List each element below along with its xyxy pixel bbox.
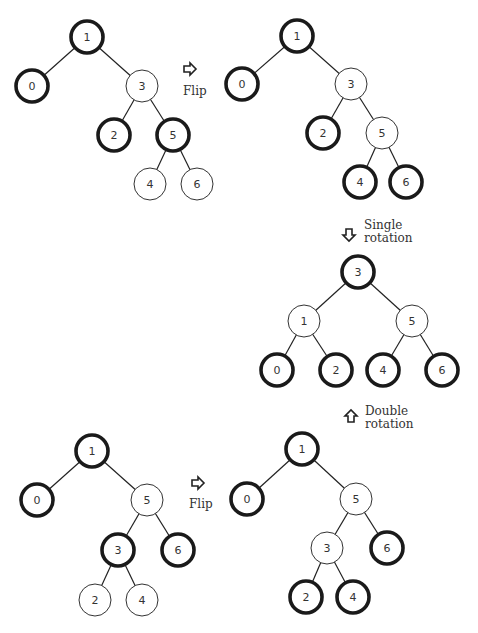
tree-node-5: 5 [396,305,428,337]
arrow-right-icon [192,477,204,489]
node-label: 1 [84,31,91,44]
node-label: 5 [144,494,151,507]
node-label: 1 [294,30,301,43]
tree-top-left: 1032546 [16,21,213,200]
tree-middle: 3150246 [261,256,458,386]
tree-node-0: 0 [226,68,258,100]
flip-top-label: Flip [183,63,207,98]
double-rotation-label: Doublerotation [345,404,414,431]
node-label: 1 [89,445,96,458]
arrow-up-icon [345,410,357,422]
node-label: 6 [175,544,182,557]
tree-node-6: 6 [181,168,213,200]
tree-top-right: 1032546 [226,20,422,198]
arrow-right-icon [184,63,196,75]
node-label: 0 [274,364,281,377]
tree-node-2: 2 [98,119,130,151]
single-rotation-label: Singlerotation [343,218,413,245]
node-label: 2 [111,129,118,142]
node-label: 2 [303,591,310,604]
tree-node-6: 6 [162,534,194,566]
node-label: 3 [324,542,331,555]
tree-node-0: 0 [261,354,293,386]
tree-node-1: 1 [76,435,108,467]
node-label: 0 [239,78,246,91]
node-label: 5 [353,493,360,506]
node-label: 5 [379,127,386,140]
transition-caption: Single [364,218,402,232]
node-label: 3 [139,80,146,93]
tree-node-3: 3 [102,534,134,566]
tree-node-6: 6 [390,166,422,198]
tree-node-5: 5 [340,483,372,515]
arrow-down-icon [343,229,355,241]
node-label: 0 [29,80,36,93]
node-label: 4 [139,594,146,607]
node-label: 6 [439,364,446,377]
red-black-tree-diagram: 10325461032546315024610536241053624FlipS… [0,0,478,633]
flip-bottom-label: Flip [189,477,213,511]
tree-node-4: 4 [344,166,376,198]
node-label: 2 [92,594,99,607]
node-label: 6 [384,542,391,555]
tree-node-6: 6 [371,532,403,564]
transition-caption: rotation [365,417,414,431]
node-label: 2 [333,364,340,377]
tree-node-5: 5 [157,119,189,151]
tree-node-0: 0 [16,70,48,102]
node-label: 1 [301,315,308,328]
tree-node-1: 1 [286,433,318,465]
node-label: 5 [170,129,177,142]
tree-node-1: 1 [288,305,320,337]
node-label: 6 [194,178,201,191]
node-label: 6 [403,176,410,189]
transition-caption: Flip [183,84,207,98]
tree-node-2: 2 [307,117,339,149]
node-label: 4 [147,178,154,191]
tree-bottom-right: 1053624 [231,433,403,613]
tree-node-4: 4 [134,168,166,200]
tree-node-4: 4 [126,584,158,616]
transition-caption: Double [365,404,408,418]
tree-node-4: 4 [337,581,369,613]
node-label: 0 [34,494,41,507]
node-label: 4 [357,176,364,189]
node-label: 3 [115,544,122,557]
tree-node-3: 3 [126,70,158,102]
node-label: 2 [320,127,327,140]
node-label: 3 [348,78,355,91]
tree-node-3: 3 [342,256,374,288]
tree-node-2: 2 [79,584,111,616]
tree-node-5: 5 [366,117,398,149]
tree-node-1: 1 [71,21,103,53]
transition-caption: Flip [189,497,213,511]
tree-node-0: 0 [231,483,263,515]
tree-node-1: 1 [281,20,313,52]
tree-node-2: 2 [320,354,352,386]
node-label: 5 [409,315,416,328]
tree-node-0: 0 [21,484,53,516]
tree-bottom-left: 1053624 [21,435,194,616]
tree-node-6: 6 [426,354,458,386]
tree-node-3: 3 [335,68,367,100]
node-label: 4 [350,591,357,604]
node-label: 4 [380,364,387,377]
node-label: 0 [244,493,251,506]
tree-node-4: 4 [367,354,399,386]
node-label: 1 [299,443,306,456]
transition-caption: rotation [364,231,413,245]
tree-node-3: 3 [311,532,343,564]
node-label: 3 [355,266,362,279]
tree-node-5: 5 [131,484,163,516]
tree-node-2: 2 [290,581,322,613]
